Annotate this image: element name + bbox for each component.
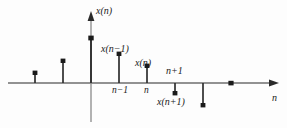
tick-label-n: n <box>144 86 149 96</box>
stem-marker <box>33 71 38 75</box>
y-axis-arrowhead <box>88 11 95 21</box>
stem-n-minus-1 <box>117 52 122 83</box>
x-axis-arrowhead <box>269 79 279 86</box>
x-axis-label: n <box>272 93 277 103</box>
stem-marker <box>201 103 206 107</box>
stem-n-plus-3-zero <box>228 81 233 86</box>
y-axis-label: x(n) <box>96 6 112 16</box>
discrete-time-signal-stem-plot: x(n) n n−1 n x(n−1) x(n) n+1 x(n+1) <box>0 0 287 128</box>
stem-n-minus-4 <box>33 71 38 83</box>
stem-n-plus-2 <box>201 83 206 107</box>
stem-group-positive <box>33 36 150 83</box>
stem-marker <box>228 81 233 86</box>
stem-n-plus-1 <box>173 83 178 95</box>
stem-n-minus-3 <box>61 59 66 83</box>
stem-marker <box>61 59 66 63</box>
stem-marker <box>173 91 178 95</box>
stem-label-x-n-minus-1: x(n−1) <box>101 44 129 54</box>
stem-label-n-plus-1: n+1 <box>166 66 183 76</box>
stem-marker <box>88 36 93 41</box>
stem-label-x-n-plus-1: x(n+1) <box>157 97 185 107</box>
stem-n-minus-2 <box>88 36 93 83</box>
tick-label-n-minus-1: n−1 <box>112 86 128 96</box>
stem-label-x-n: x(n) <box>135 58 151 68</box>
